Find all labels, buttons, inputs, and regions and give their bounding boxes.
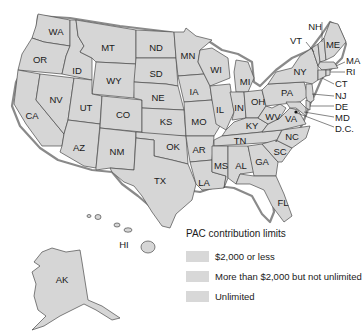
label-ga: GA	[255, 156, 269, 167]
label-mi: MI	[240, 76, 251, 87]
state-hi-island-4[interactable]	[124, 228, 132, 232]
label-ms: MS	[214, 160, 228, 171]
legend-label: More than $2,000 but not unlimited	[215, 271, 362, 282]
leader-md	[304, 112, 334, 117]
label-vt: VT	[290, 35, 302, 46]
label-md: MD	[335, 112, 350, 123]
label-ri: RI	[346, 66, 356, 77]
label-or: OR	[33, 54, 47, 65]
label-id: ID	[72, 65, 82, 76]
label-nm: NM	[110, 146, 125, 157]
label-sd: SD	[149, 68, 162, 79]
legend-label: $2,000 or less	[215, 251, 275, 262]
state-ak[interactable]	[32, 248, 120, 330]
label-ca: CA	[25, 110, 39, 121]
label-pa: PA	[281, 87, 294, 98]
label-tn: TN	[234, 135, 247, 146]
label-mt: MT	[101, 42, 115, 53]
label-wa: WA	[49, 26, 65, 37]
label-co: CO	[116, 109, 130, 120]
label-ny: NY	[293, 66, 307, 77]
legend-swatch	[186, 251, 209, 262]
state-de[interactable]	[306, 100, 310, 110]
label-ut: UT	[80, 102, 93, 113]
state-hi-island-2[interactable]	[95, 215, 101, 220]
label-il: IL	[216, 104, 224, 115]
legend-swatch	[186, 291, 209, 302]
label-ma: MA	[346, 55, 361, 66]
state-ma[interactable]	[318, 62, 338, 70]
legend: PAC contribution limits $2,000 or less M…	[186, 228, 363, 309]
label-ne: NE	[151, 92, 164, 103]
legend-label: Unlimited	[215, 291, 255, 302]
state-hi-island-5[interactable]	[141, 241, 155, 253]
label-de: DE	[335, 101, 348, 112]
label-me: ME	[326, 39, 340, 50]
label-nc: NC	[285, 131, 299, 142]
state-hi-island-3[interactable]	[114, 223, 120, 227]
label-wy: WY	[106, 75, 122, 86]
label-ky: KY	[246, 120, 259, 131]
state-hi-island-1[interactable]	[87, 215, 91, 218]
legend-item: More than $2,000 but not unlimited	[186, 269, 363, 283]
label-ar: AR	[192, 144, 205, 155]
label-nh: NH	[308, 21, 322, 32]
label-tx: TX	[154, 175, 167, 186]
label-ok: OK	[166, 141, 180, 152]
label-la: LA	[198, 177, 210, 188]
label-dc: D.C.	[335, 123, 354, 134]
label-mn: MN	[181, 50, 196, 61]
legend-item: $2,000 or less	[186, 249, 363, 263]
label-sc: SC	[273, 146, 286, 157]
legend-swatch	[186, 271, 209, 282]
label-fl: FL	[277, 197, 288, 208]
label-oh: OH	[251, 96, 265, 107]
label-wi: WI	[210, 64, 222, 75]
label-az: AZ	[73, 142, 85, 153]
label-al: AL	[235, 160, 247, 171]
legend-title: PAC contribution limits	[186, 228, 363, 239]
label-mo: MO	[191, 116, 206, 127]
label-wv: WV	[265, 111, 281, 122]
label-ct: CT	[335, 78, 348, 89]
label-hi: HI	[119, 239, 129, 250]
label-ks: KS	[160, 116, 173, 127]
state-ri[interactable]	[326, 70, 330, 76]
label-va: VA	[285, 113, 298, 124]
label-nv: NV	[49, 94, 63, 105]
legend-item: Unlimited	[186, 289, 363, 303]
label-ia: IA	[190, 86, 200, 97]
label-nj: NJ	[335, 90, 347, 101]
label-ak: AK	[56, 274, 69, 285]
label-nd: ND	[149, 42, 163, 53]
leader-ct	[322, 78, 334, 84]
label-in: IN	[234, 102, 244, 113]
